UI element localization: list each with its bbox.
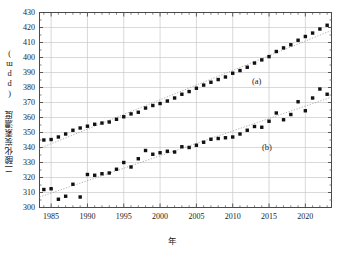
x-tick-label: 1985 [36, 212, 66, 221]
y-tick-label: 340 [15, 143, 35, 152]
x-tick-label: 2005 [181, 212, 211, 221]
y-tick-label: 300 [15, 203, 35, 212]
series-label-a: (a) [252, 76, 261, 86]
y-tick-label: 310 [15, 188, 35, 197]
y-tick-label: 420 [15, 23, 35, 32]
co2-concentration-chart: 二酸化炭素濃度 (ppm) 年 (a) (b) 3003103203303403… [0, 0, 344, 256]
y-tick-label: 430 [15, 8, 35, 17]
series-label-b: (b) [262, 142, 272, 152]
y-tick-label: 360 [15, 113, 35, 122]
y-tick-label: 330 [15, 158, 35, 167]
y-tick-label: 400 [15, 53, 35, 62]
y-tick-label: 320 [15, 173, 35, 182]
data-points [42, 24, 329, 201]
x-tick-label: 2000 [145, 212, 175, 221]
x-tick-label: 2010 [218, 212, 248, 221]
y-tick-label: 370 [15, 98, 35, 107]
x-tick-label: 1995 [109, 212, 139, 221]
axis-ticks [40, 13, 332, 208]
gridlines [40, 13, 332, 208]
x-tick-label: 1990 [72, 212, 102, 221]
x-axis-title: 年 [0, 234, 344, 246]
x-tick-label: 2020 [290, 212, 320, 221]
plot-frame [40, 13, 332, 208]
x-tick-label: 2015 [254, 212, 284, 221]
y-tick-label: 410 [15, 38, 35, 47]
trendlines [40, 30, 332, 197]
y-tick-label: 350 [15, 128, 35, 137]
y-tick-label: 390 [15, 68, 35, 77]
y-tick-label: 380 [15, 83, 35, 92]
